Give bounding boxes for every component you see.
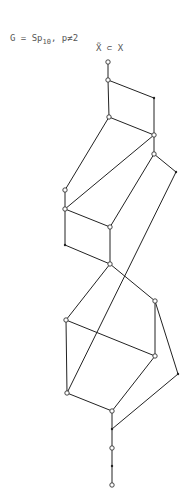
hasse-diagram bbox=[0, 0, 192, 504]
vertex-v4 bbox=[107, 115, 111, 119]
edge-v16-v18 bbox=[67, 393, 112, 411]
vertex-v3 bbox=[153, 97, 155, 99]
vertex-v2 bbox=[106, 78, 110, 82]
vertex-v6 bbox=[152, 152, 156, 156]
vertex-v19 bbox=[111, 428, 113, 430]
edge-v4-v8 bbox=[65, 117, 109, 190]
vertex-v16 bbox=[65, 391, 69, 395]
vertex-v7 bbox=[175, 171, 177, 173]
vertex-v12 bbox=[108, 262, 112, 266]
edge-v13-v16 bbox=[66, 320, 67, 393]
edge-v12-v13 bbox=[66, 264, 110, 320]
vertex-v22 bbox=[110, 483, 114, 487]
edge-v15-v18 bbox=[112, 356, 155, 411]
vertex-v18 bbox=[110, 409, 114, 413]
edge-v13-v15 bbox=[66, 320, 155, 356]
edge-v17-v19 bbox=[112, 374, 178, 429]
edge-v9-v10 bbox=[65, 209, 110, 227]
edge-v7-v16 bbox=[67, 172, 176, 393]
edge-v14-v17 bbox=[155, 301, 178, 374]
edges-group bbox=[65, 62, 178, 485]
edge-v2-v4 bbox=[108, 80, 109, 117]
vertex-v14 bbox=[153, 299, 157, 303]
vertex-v20 bbox=[110, 446, 114, 450]
edge-v12-v14 bbox=[110, 264, 155, 301]
vertex-v9 bbox=[63, 207, 67, 211]
vertex-v21 bbox=[111, 465, 113, 467]
vertex-v1 bbox=[106, 60, 110, 64]
vertex-v5 bbox=[152, 133, 156, 137]
edge-v5-v9 bbox=[65, 135, 154, 209]
edge-v11-v12 bbox=[65, 245, 110, 264]
edge-v2-v3 bbox=[108, 80, 154, 98]
edge-v6-v10 bbox=[110, 154, 154, 227]
vertex-v13 bbox=[64, 318, 68, 322]
vertex-v10 bbox=[108, 225, 112, 229]
edge-v4-v5 bbox=[109, 117, 154, 135]
vertex-v11 bbox=[64, 244, 66, 246]
vertex-v8 bbox=[63, 188, 67, 192]
edge-v6-v7 bbox=[154, 154, 176, 172]
vertex-v15 bbox=[153, 354, 157, 358]
vertex-v17 bbox=[177, 373, 179, 375]
